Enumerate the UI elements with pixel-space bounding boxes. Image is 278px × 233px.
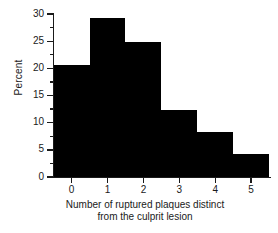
x-tick-4 [215, 178, 216, 183]
x-axis-title-line-1: Number of ruptured plaques distinct [30, 199, 260, 211]
y-minor-tick [50, 81, 54, 82]
x-axis-title: Number of ruptured plaques distinct from… [30, 199, 260, 223]
x-tick-label-3: 3 [167, 185, 191, 195]
bar-3 [161, 110, 197, 177]
x-tick-label-0: 0 [60, 185, 84, 195]
y-tick-label-30: 30 [18, 9, 44, 19]
y-tick-5 [47, 149, 53, 150]
x-tick-0 [71, 178, 72, 183]
x-axis-title-line-2: from the culprit lesion [30, 211, 260, 223]
y-tick-label-25: 25 [18, 36, 44, 46]
y-minor-tick [50, 54, 54, 55]
bar-0 [54, 65, 90, 177]
x-tick-1 [107, 178, 108, 183]
y-tick-25 [47, 41, 53, 42]
y-tick-label-15: 15 [18, 90, 44, 100]
x-tick-3 [179, 178, 180, 183]
y-minor-tick [50, 108, 54, 109]
y-tick-label-5: 5 [18, 144, 44, 154]
y-minor-tick [50, 27, 54, 28]
x-tick-2 [143, 178, 144, 183]
x-tick-label-4: 4 [203, 185, 227, 195]
y-tick-15 [47, 95, 53, 96]
x-tick-label-2: 2 [131, 185, 155, 195]
x-tick-label-1: 1 [96, 185, 120, 195]
y-tick-label-20: 20 [18, 63, 44, 73]
x-tick-5 [250, 178, 251, 183]
y-tick-20 [47, 68, 53, 69]
x-tick-label-5: 5 [239, 185, 263, 195]
y-tick-0 [47, 176, 53, 177]
y-tick-label-10: 10 [18, 117, 44, 127]
y-tick-10 [47, 122, 53, 123]
histogram-figure: Percent 051015202530012345 Number of rup… [0, 0, 278, 233]
bar-1 [90, 18, 126, 177]
y-tick-30 [47, 13, 53, 14]
bar-2 [125, 42, 161, 177]
y-minor-tick [50, 136, 54, 137]
y-minor-tick [50, 163, 54, 164]
bar-5 [233, 154, 269, 177]
bar-4 [197, 132, 233, 177]
y-tick-label-0: 0 [18, 172, 44, 182]
